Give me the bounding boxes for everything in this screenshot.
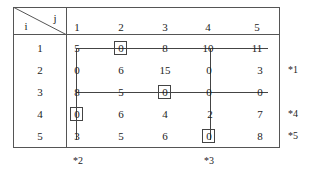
cell-2-1: 0 <box>67 64 87 76</box>
cell-4-4: 2 <box>200 108 220 120</box>
cell-5-1: 3 <box>67 130 87 142</box>
cell-4-1: 0 <box>67 108 87 120</box>
col-header-5: 5 <box>247 21 267 33</box>
col-header-4: 4 <box>198 21 218 33</box>
row-label-1: 1 <box>30 42 50 54</box>
cell-4-3: 4 <box>155 108 175 120</box>
cell-2-3: 15 <box>155 64 175 76</box>
cell-3-1: 8 <box>67 86 87 98</box>
cell-1-3: 8 <box>155 42 175 54</box>
cell-3-2: 5 <box>111 86 131 98</box>
row-mark-2: *1 <box>288 64 298 76</box>
col-header-1: 1 <box>67 21 87 33</box>
col-header-3: 3 <box>155 21 175 33</box>
col-axis-label: j <box>45 12 65 24</box>
row-label-5: 5 <box>30 130 50 142</box>
cell-5-5: 8 <box>250 130 270 142</box>
cell-1-4: 10 <box>198 42 218 54</box>
row-mark-5: *5 <box>288 130 298 142</box>
cell-3-4: 0 <box>199 86 219 98</box>
row-label-4: 4 <box>30 108 50 120</box>
cell-5-4: 0 <box>199 130 219 142</box>
cell-5-3: 6 <box>155 130 175 142</box>
row-axis-label: i <box>16 20 36 32</box>
cell-2-5: 3 <box>250 64 270 76</box>
col-mark-1: *2 <box>73 155 83 167</box>
cell-1-2: 0 <box>111 42 131 54</box>
cell-4-2: 6 <box>111 108 131 120</box>
col-mark-4: *3 <box>204 155 214 167</box>
row-label-2: 2 <box>30 64 50 76</box>
row-mark-4: *4 <box>288 108 298 120</box>
cell-2-4: 0 <box>199 64 219 76</box>
col-header-2: 2 <box>111 21 131 33</box>
cell-3-3: 0 <box>155 86 175 98</box>
row-label-3: 3 <box>30 86 50 98</box>
cell-5-2: 5 <box>111 130 131 142</box>
cell-4-5: 7 <box>250 108 270 120</box>
cell-2-2: 6 <box>111 64 131 76</box>
cell-1-5: 11 <box>247 42 267 54</box>
cell-1-1: 5 <box>67 42 87 54</box>
cell-3-5: 0 <box>250 86 270 98</box>
